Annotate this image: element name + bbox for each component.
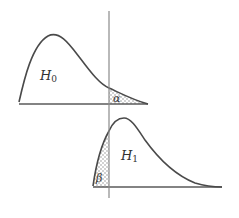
h1-label: H1 [120,148,138,164]
hypothesis-test-diagram: H0 α H1 β [0,0,239,218]
h0-curve [19,35,148,104]
alpha-label: α [113,92,121,105]
h1-curve [93,118,222,187]
h0-distribution: H0 α [19,35,148,105]
h0-label: H0 [39,68,57,84]
h1-distribution: H1 β [93,118,222,187]
beta-label: β [95,172,102,185]
